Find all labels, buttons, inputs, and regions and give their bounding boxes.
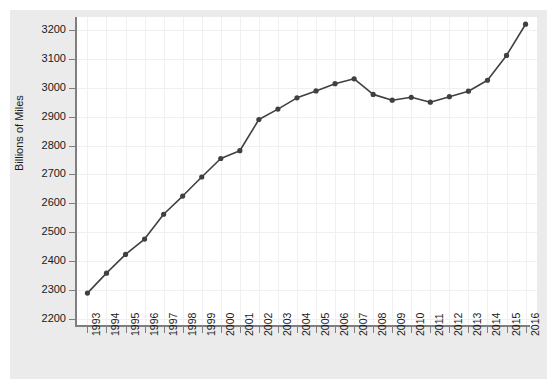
x-tick-mark <box>526 327 527 333</box>
x-tick-label: 2009 <box>396 313 407 336</box>
x-tick-mark <box>87 327 88 333</box>
gridline-vertical <box>164 17 165 326</box>
y-tick-label: 2600 <box>42 197 66 208</box>
gridline-vertical <box>507 17 508 326</box>
x-tick-mark <box>183 327 184 333</box>
x-tick-mark <box>335 327 336 333</box>
x-tick-label: 1996 <box>149 313 160 336</box>
x-tick-label: 2008 <box>377 313 388 336</box>
y-tick-mark <box>69 30 75 31</box>
gridline-vertical <box>106 17 107 326</box>
x-tick-label: 2005 <box>320 313 331 336</box>
x-tick-label: 2015 <box>511 313 522 336</box>
gridline-vertical <box>449 17 450 326</box>
x-tick-label: 1998 <box>187 313 198 336</box>
x-tick-mark <box>316 327 317 333</box>
gridline-vertical <box>430 17 431 326</box>
x-tick-label: 2014 <box>491 313 502 336</box>
chart-figure: 2200230024002500260027002800290030003100… <box>0 0 557 389</box>
gridline-vertical <box>487 17 488 326</box>
y-tick-mark <box>69 174 75 175</box>
x-tick-mark <box>430 327 431 333</box>
gridline-vertical <box>240 17 241 326</box>
x-tick-label: 2013 <box>472 313 483 336</box>
gridline-vertical <box>335 17 336 326</box>
x-tick-mark <box>468 327 469 333</box>
gridline-vertical <box>468 17 469 326</box>
x-tick-label: 1999 <box>206 313 217 336</box>
gridline-vertical <box>392 17 393 326</box>
gridline-vertical <box>297 17 298 326</box>
x-tick-label: 2000 <box>225 313 236 336</box>
y-tick-label-wrap: 2500 <box>0 226 66 237</box>
y-tick-label-wrap: 2400 <box>0 255 66 266</box>
x-tick-label: 2004 <box>301 313 312 336</box>
y-tick-label-wrap: 2900 <box>0 111 66 122</box>
gridline-vertical <box>183 17 184 326</box>
y-tick-label: 2400 <box>42 255 66 266</box>
x-tick-label: 2001 <box>244 313 255 336</box>
y-tick-mark <box>69 232 75 233</box>
x-tick-label: 2003 <box>282 313 293 336</box>
y-tick-label-wrap: 3100 <box>0 53 66 64</box>
y-tick-label: 3200 <box>42 24 66 35</box>
x-tick-mark <box>221 327 222 333</box>
x-tick-mark <box>278 327 279 333</box>
x-tick-mark <box>411 327 412 333</box>
x-tick-label: 2012 <box>453 313 464 336</box>
x-tick-label: 2016 <box>530 313 541 336</box>
gridline-vertical <box>278 17 279 326</box>
y-tick-mark <box>69 117 75 118</box>
x-tick-mark <box>373 327 374 333</box>
y-tick-label-wrap: 3200 <box>0 24 66 35</box>
y-tick-label: 3000 <box>42 82 66 93</box>
x-tick-mark <box>449 327 450 333</box>
y-axis-line <box>75 17 77 326</box>
x-tick-mark <box>507 327 508 333</box>
gridline-vertical <box>259 17 260 326</box>
y-tick-mark <box>69 290 75 291</box>
x-tick-label: 1995 <box>130 313 141 336</box>
y-tick-label-wrap: 3000 <box>0 82 66 93</box>
x-tick-mark <box>354 327 355 333</box>
y-tick-mark <box>69 146 75 147</box>
y-tick-label-wrap: 2600 <box>0 197 66 208</box>
x-tick-mark <box>392 327 393 333</box>
y-tick-label: 2900 <box>42 111 66 122</box>
gridline-vertical <box>87 17 88 326</box>
x-tick-label: 1997 <box>168 313 179 336</box>
y-tick-mark <box>69 88 75 89</box>
x-tick-mark <box>106 327 107 333</box>
gridline-vertical <box>373 17 374 326</box>
y-tick-mark <box>69 203 75 204</box>
x-tick-mark <box>145 327 146 333</box>
x-tick-mark <box>487 327 488 333</box>
gridline-vertical <box>526 17 527 326</box>
x-tick-label: 2002 <box>263 313 274 336</box>
y-tick-label-wrap: 2800 <box>0 140 66 151</box>
gridline-vertical <box>202 17 203 326</box>
gridline-vertical <box>316 17 317 326</box>
x-tick-mark <box>126 327 127 333</box>
y-tick-mark <box>69 319 75 320</box>
x-tick-label: 2011 <box>434 313 445 336</box>
y-tick-label: 2700 <box>42 168 66 179</box>
x-tick-mark <box>297 327 298 333</box>
x-tick-label: 1993 <box>91 313 102 336</box>
x-tick-label: 2007 <box>358 313 369 336</box>
x-tick-mark <box>240 327 241 333</box>
y-tick-mark <box>69 261 75 262</box>
y-tick-label: 2300 <box>42 284 66 295</box>
y-axis-title: Billions of Miles <box>14 95 25 171</box>
y-tick-label: 2200 <box>42 313 66 324</box>
gridline-vertical <box>145 17 146 326</box>
gridline-vertical <box>221 17 222 326</box>
x-tick-mark <box>202 327 203 333</box>
gridline-vertical <box>411 17 412 326</box>
x-tick-label: 2010 <box>415 313 426 336</box>
y-tick-label-wrap: 2700 <box>0 168 66 179</box>
y-tick-label: 2800 <box>42 140 66 151</box>
y-tick-label: 2500 <box>42 226 66 237</box>
y-tick-label-wrap: 2200 <box>0 313 66 324</box>
x-tick-mark <box>259 327 260 333</box>
